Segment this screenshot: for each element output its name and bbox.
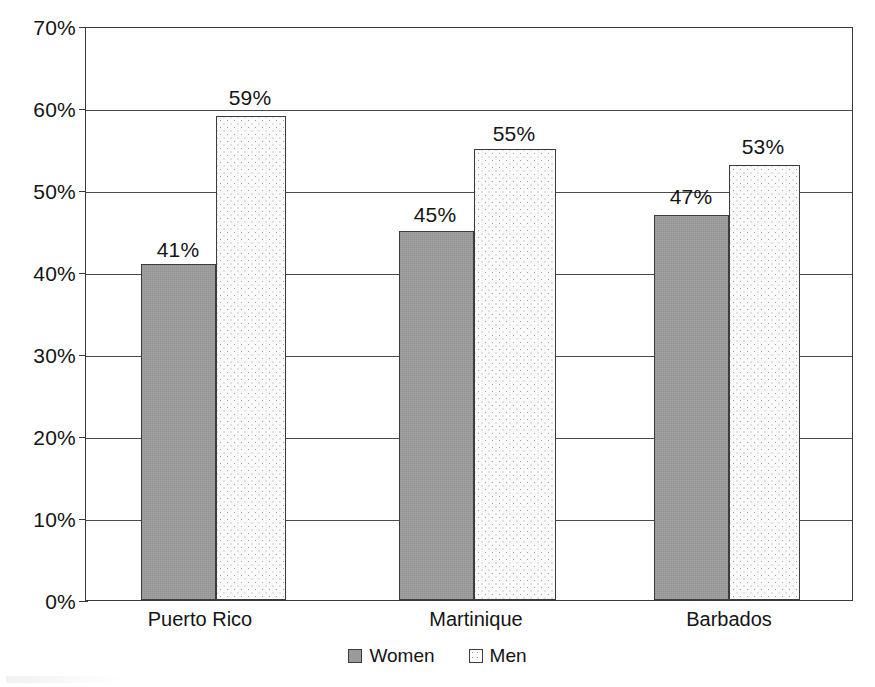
legend-label-women: Women (369, 645, 434, 667)
legend-swatch-women-icon (348, 649, 362, 663)
chart-legend: Women Men (0, 645, 875, 667)
plot-area (85, 27, 853, 601)
bar-value-label-women-martinique: 45% (394, 203, 476, 227)
y-tick-label-0: 0% (0, 590, 76, 614)
legend-swatch-men-icon (469, 649, 483, 663)
y-tick-label-30: 30% (0, 344, 76, 368)
y-tick-label-50: 50% (0, 180, 76, 204)
y-tick-label-70: 70% (0, 16, 76, 40)
bar-value-label-men-barbados: 53% (722, 135, 804, 159)
y-tick-label-10: 10% (0, 508, 76, 532)
y-tick-label-60: 60% (0, 98, 76, 122)
bar-women-barbados[interactable] (654, 215, 729, 600)
gridline-60 (86, 110, 852, 111)
bar-chart-figure: 70% 60% 50% 40% 30% 20% 10% 0% (0, 0, 875, 687)
x-tick-label-puerto-rico: Puerto Rico (113, 608, 287, 631)
bar-women-martinique[interactable] (399, 231, 474, 600)
x-tick-label-barbados: Barbados (642, 608, 816, 631)
bar-men-puerto-rico[interactable] (216, 116, 286, 600)
y-tick-label-20: 20% (0, 426, 76, 450)
bar-men-barbados[interactable] (729, 165, 800, 600)
bar-value-label-women-barbados: 47% (650, 185, 732, 209)
bar-men-martinique[interactable] (474, 149, 556, 600)
x-tick-label-martinique: Martinique (389, 608, 563, 631)
y-tick-label-40: 40% (0, 262, 76, 286)
scan-artifact (6, 676, 124, 683)
legend-label-men: Men (490, 645, 527, 667)
legend-item-men[interactable]: Men (469, 645, 527, 667)
bar-women-puerto-rico[interactable] (141, 264, 216, 600)
y-tick-mark-0 (79, 601, 88, 602)
bar-value-label-women-puerto-rico: 41% (137, 238, 219, 262)
legend-item-women[interactable]: Women (348, 645, 434, 667)
bar-value-label-men-martinique: 55% (473, 122, 555, 146)
bar-value-label-men-puerto-rico: 59% (209, 86, 291, 110)
